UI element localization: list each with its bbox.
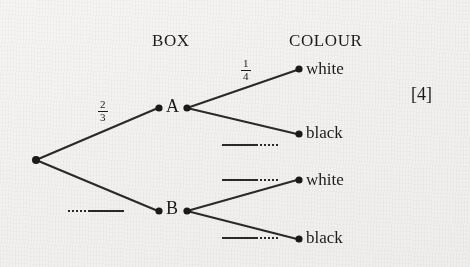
fraction-numerator: 2: [98, 99, 108, 111]
blank-solid-segment: [90, 210, 124, 212]
blank-solid-segment: [222, 144, 256, 146]
node-leaf-b-white: [295, 176, 302, 183]
node-box-b-split: [183, 207, 190, 214]
leaf-label-b-black: black: [306, 228, 343, 248]
branch-a-to-black: [187, 108, 297, 134]
answer-blank-b-white[interactable]: [222, 174, 278, 184]
column-header-box: BOX: [152, 31, 190, 51]
blank-solid-segment: [222, 237, 256, 239]
blank-solid-segment: [222, 179, 256, 181]
blank-dotted-segment: [256, 237, 278, 239]
fraction-denominator: 3: [98, 111, 108, 124]
blank-dotted-segment: [256, 179, 278, 181]
leaf-label-b-white: white: [306, 170, 344, 190]
tree-diagram-canvas: [0, 0, 470, 267]
marks-allocation: [4]: [411, 84, 432, 105]
tree-diagram-page: BOX COLOUR A B white black white black 2…: [0, 0, 470, 267]
answer-blank-b-black[interactable]: [222, 232, 278, 242]
branch-b-to-white: [187, 180, 297, 211]
leaf-label-a-black: black: [306, 123, 343, 143]
answer-blank-a-black[interactable]: [222, 139, 278, 149]
branch-root-to-b: [36, 160, 158, 211]
node-label-box-a: A: [166, 96, 179, 117]
answer-blank-root-b[interactable]: [68, 205, 124, 215]
leaf-label-a-white: white: [306, 59, 344, 79]
node-box-a-split: [183, 104, 190, 111]
node-label-box-b: B: [166, 198, 178, 219]
branch-probability-root-a: 2 3: [98, 99, 108, 123]
node-leaf-a-black: [295, 130, 302, 137]
branch-probability-a-white: 1 4: [241, 58, 251, 82]
fraction-numerator: 1: [241, 58, 251, 70]
node-leaf-b-black: [295, 235, 302, 242]
fraction-denominator: 4: [241, 70, 251, 83]
node-box-a: [155, 104, 162, 111]
node-box-b: [155, 207, 162, 214]
node-root: [32, 156, 40, 164]
blank-dotted-segment: [256, 144, 278, 146]
branch-root-to-a: [36, 108, 158, 160]
column-header-colour: COLOUR: [289, 31, 363, 51]
blank-dotted-segment: [68, 210, 90, 212]
node-leaf-a-white: [295, 65, 302, 72]
